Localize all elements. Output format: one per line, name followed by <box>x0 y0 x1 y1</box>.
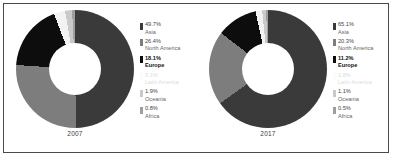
legend-region-label: Oceania <box>145 97 196 103</box>
legend-2007: 49.7%Asia26.4%North America18.1%Europe3.… <box>140 22 196 123</box>
legend-region-label: Africa <box>338 114 389 120</box>
legend-item: 0.5%Africa <box>333 106 389 119</box>
legend-percent: 0.8% <box>145 106 158 112</box>
donut-chart-2007 <box>16 10 134 128</box>
legend-percent: 11.2% <box>338 56 354 62</box>
legend-color-swatch <box>140 107 143 114</box>
chart-year-label: 2017 <box>209 130 327 137</box>
legend-percent: 1.8% <box>338 73 351 79</box>
legend-item: 11.2%Europe <box>333 56 389 69</box>
legend-region-label: Latin America <box>145 80 196 86</box>
legend-region-label: Europe <box>338 63 389 69</box>
legend-region-label: Asia <box>145 30 196 36</box>
legend-region-label: North America <box>338 46 389 52</box>
legend-item: 49.7%Asia <box>140 22 196 35</box>
legend-region-label: Europe <box>145 63 196 69</box>
legend-color-swatch <box>140 56 143 63</box>
legend-item: 1.8%Latin America <box>333 73 389 86</box>
legend-percent: 20.3% <box>338 39 354 45</box>
donut-chart-2017 <box>209 10 327 128</box>
legend-percent: 65.1% <box>338 22 354 28</box>
legend-percent: 49.7% <box>145 22 161 28</box>
legend-item: 1.1%Oceania <box>333 89 389 102</box>
chart-panel-2007: 2007 49.7%Asia26.4%North America18.1%Eur… <box>4 4 197 152</box>
legend-region-label: Oceania <box>338 97 389 103</box>
legend-item: 3.1%Latin America <box>140 73 196 86</box>
legend-item: 65.1%Asia <box>333 22 389 35</box>
legend-color-swatch <box>333 90 336 97</box>
legend-region-label: Africa <box>145 114 196 120</box>
legend-color-swatch <box>140 23 143 30</box>
legend-color-swatch <box>140 90 143 97</box>
legend-item: 18.1%Europe <box>140 56 196 69</box>
legend-percent: 1.1% <box>338 89 351 95</box>
legend-color-swatch <box>333 39 336 46</box>
legend-color-swatch <box>333 23 336 30</box>
legend-region-label: Asia <box>338 30 389 36</box>
donut-hole <box>242 43 294 95</box>
legend-color-swatch <box>140 73 143 80</box>
legend-percent: 3.1% <box>145 73 158 79</box>
legend-item: 20.3%North America <box>333 39 389 52</box>
legend-percent: 0.5% <box>338 106 351 112</box>
figure-frame: 2007 49.7%Asia26.4%North America18.1%Eur… <box>3 3 389 153</box>
legend-percent: 18.1% <box>145 56 161 62</box>
legend-item: 26.4%North America <box>140 39 196 52</box>
legend-percent: 1.9% <box>145 89 158 95</box>
legend-region-label: North America <box>145 46 196 52</box>
donut-hole <box>49 43 101 95</box>
legend-item: 0.8%Africa <box>140 106 196 119</box>
legend-percent: 26.4% <box>145 39 161 45</box>
legend-color-swatch <box>333 56 336 63</box>
legend-region-label: Latin America <box>338 80 389 86</box>
chart-panel-2017: 2017 65.1%Asia20.3%North America11.2%Eur… <box>197 4 390 152</box>
legend-color-swatch <box>333 73 336 80</box>
legend-item: 1.9%Oceania <box>140 89 196 102</box>
chart-year-label: 2007 <box>16 130 134 137</box>
legend-color-swatch <box>333 107 336 114</box>
legend-2017: 65.1%Asia20.3%North America11.2%Europe1.… <box>333 22 389 123</box>
legend-color-swatch <box>140 39 143 46</box>
